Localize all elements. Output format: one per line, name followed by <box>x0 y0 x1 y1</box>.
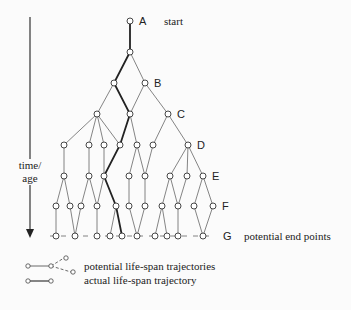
end-points-annotation: potential end points <box>244 230 331 242</box>
legend-symbols <box>26 256 75 283</box>
life-span-trajectory-diagram: time/ age A start B C D E F G potential … <box>0 0 351 310</box>
level-label-f: F <box>222 200 229 212</box>
level-label-d: D <box>197 139 205 151</box>
level-label-e: E <box>212 170 219 182</box>
time-age-axis-label: time/ age <box>10 159 50 185</box>
level-label-a: A <box>139 15 146 27</box>
nodes <box>53 18 216 239</box>
level-label-g: G <box>223 230 232 242</box>
level-label-c: C <box>177 108 185 120</box>
axis-label-time: time/ <box>10 159 50 172</box>
axis-label-age: age <box>10 172 50 185</box>
legend-actual-label: actual life-span trajectory <box>84 274 196 286</box>
legend-potential-label: potential life-span trajectories <box>84 260 215 272</box>
start-annotation: start <box>164 15 183 27</box>
level-label-b: B <box>154 77 161 89</box>
time-axis-arrow <box>26 17 34 238</box>
